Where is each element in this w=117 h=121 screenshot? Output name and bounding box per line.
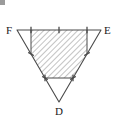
vertex-label-e: E [104, 25, 111, 36]
geometry-figure: F E D [0, 0, 117, 121]
shaded-region-polygon [31, 30, 87, 78]
vertex-label-f: F [6, 25, 12, 36]
vertex-label-d: D [55, 106, 63, 117]
shaded-region [31, 30, 87, 78]
figure-canvas [0, 0, 117, 121]
